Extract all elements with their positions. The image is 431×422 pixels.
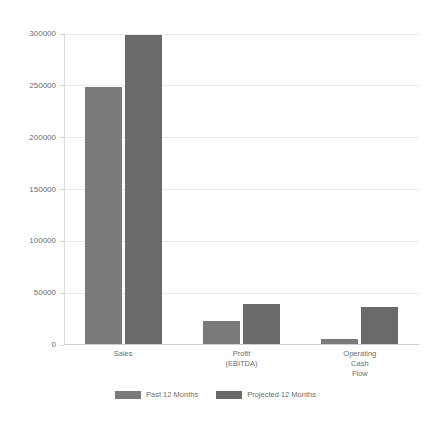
legend-item[interactable]: Past 12 Months (115, 390, 198, 399)
x-axis-label-line: Cash (301, 359, 419, 369)
x-axis-category-label: OperatingCashFlow (301, 349, 419, 379)
x-axis-label-line: (EBITDA) (182, 359, 300, 369)
bar[interactable] (321, 339, 358, 344)
bar[interactable] (85, 87, 122, 344)
y-axis-tick-label: 0 (52, 341, 56, 349)
legend-swatch-icon (216, 391, 242, 399)
bar-group (85, 34, 162, 344)
bar[interactable] (203, 321, 240, 344)
legend-swatch-icon (115, 391, 141, 399)
y-axis-tick-label: 100000 (29, 237, 56, 245)
y-axis-tick-label: 50000 (34, 289, 56, 297)
x-axis-category-label: Sales (64, 349, 182, 359)
y-axis-labels: 050000100000150000200000250000300000 (0, 34, 56, 345)
y-axis-tick-label: 250000 (29, 82, 56, 90)
plot-area (64, 34, 419, 345)
bar-group (321, 34, 398, 344)
legend-label: Projected 12 Months (247, 390, 316, 399)
bar-chart: 050000100000150000200000250000300000 Sal… (0, 0, 431, 422)
x-axis-label-line: Flow (301, 369, 419, 379)
y-axis-tick-label: 300000 (29, 30, 56, 38)
x-axis-line (64, 344, 419, 345)
bar[interactable] (125, 35, 162, 344)
bar[interactable] (361, 307, 398, 344)
y-axis-line (64, 34, 65, 345)
y-axis-tick-label: 200000 (29, 134, 56, 142)
bar-group (203, 34, 280, 344)
y-axis-tick-label: 150000 (29, 186, 56, 194)
legend-label: Past 12 Months (146, 390, 198, 399)
x-axis-category-label: Profit(EBITDA) (182, 349, 300, 369)
x-axis-label-line: Operating (301, 349, 419, 359)
x-axis-label-line: Profit (182, 349, 300, 359)
bar[interactable] (243, 304, 280, 344)
legend-item[interactable]: Projected 12 Months (216, 390, 316, 399)
chart-legend: Past 12 MonthsProjected 12 Months (0, 390, 431, 399)
x-axis-label-line: Sales (64, 349, 182, 359)
x-axis-labels: SalesProfit(EBITDA)OperatingCashFlow (64, 349, 419, 389)
